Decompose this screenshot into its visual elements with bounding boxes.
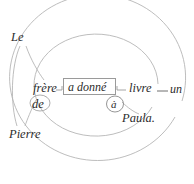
word-livre: livre <box>129 82 151 95</box>
box-livre-connector <box>117 86 126 90</box>
word-pierre: Pierre <box>9 128 40 141</box>
word-de: de <box>32 98 44 111</box>
syntax-diagram: Le frère de Pierre a donné livre un à Pa… <box>0 0 194 184</box>
word-frere: frère <box>33 82 57 95</box>
boxed-predicate: a donné <box>63 78 116 95</box>
word-un: un <box>170 83 182 95</box>
word-a-preposition: à <box>111 99 117 110</box>
word-a-donne: a donné <box>68 81 106 93</box>
word-le: Le <box>11 31 24 44</box>
word-paula: Paula. <box>122 112 155 125</box>
